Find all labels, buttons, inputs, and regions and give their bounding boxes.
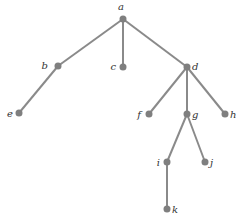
node-h <box>222 111 229 118</box>
edge-g-i <box>167 114 187 162</box>
node-label-e: e <box>7 108 13 119</box>
node-label-b: b <box>42 60 48 71</box>
node-g <box>184 111 191 118</box>
node-c <box>120 64 127 71</box>
node-label-a: a <box>118 1 124 12</box>
edge-a-d <box>123 19 187 67</box>
node-e <box>16 110 23 117</box>
node-label-c: c <box>110 61 116 72</box>
node-j <box>202 159 209 166</box>
node-a <box>120 16 127 23</box>
node-f <box>146 111 153 118</box>
edge-a-b <box>58 19 123 66</box>
edge-b-e <box>19 66 58 113</box>
node-label-g: g <box>192 109 198 120</box>
node-d <box>184 64 191 71</box>
tree-labels: abcdefghijk <box>7 1 236 215</box>
node-k <box>164 206 171 213</box>
node-label-f: f <box>136 109 143 120</box>
node-label-k: k <box>172 204 178 215</box>
node-label-d: d <box>192 61 198 72</box>
node-label-h: h <box>230 109 236 120</box>
node-i <box>164 159 171 166</box>
edge-d-f <box>149 67 187 114</box>
node-label-i: i <box>157 157 160 168</box>
node-b <box>55 63 62 70</box>
tree-diagram: abcdefghijk <box>0 0 243 218</box>
edge-g-j <box>187 114 205 162</box>
node-label-j: j <box>208 157 213 168</box>
edge-d-h <box>187 67 225 114</box>
